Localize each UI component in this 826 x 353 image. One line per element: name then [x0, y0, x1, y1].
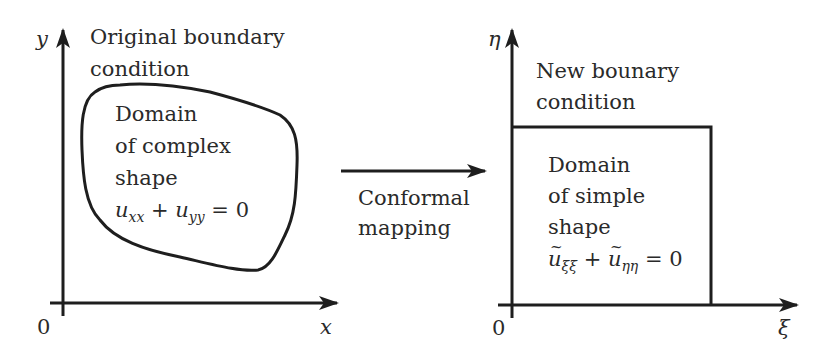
simple-domain-label-line1: Domain — [548, 150, 630, 180]
left-origin-label: 0 — [37, 312, 50, 342]
eq-equals-zero: = 0 — [211, 198, 249, 222]
complex-domain-label-line1: Domain — [115, 99, 197, 129]
eq-plus: + — [584, 247, 602, 271]
eq-var-u: u — [115, 198, 129, 222]
complex-domain-label-line3: shape — [115, 163, 178, 193]
right-origin-label: 0 — [492, 313, 505, 343]
complex-domain-label-line2: of complex — [115, 131, 231, 161]
left-y-axis-label: y — [36, 24, 48, 54]
left-x-axis-label: x — [320, 312, 332, 342]
eq-var-u: u — [175, 198, 189, 222]
laplace-equation-original: uxx + uyy = 0 — [115, 195, 249, 227]
conformal-mapping-label-line2: mapping — [358, 213, 451, 243]
new-boundary-label-line2: condition — [536, 87, 635, 117]
eq-var-u-tilde: u — [608, 244, 622, 274]
eq-sub-xx: xx — [129, 209, 145, 225]
eq-sub-xixi: ξξ — [562, 258, 577, 274]
right-eta-axis-label: η — [488, 24, 501, 54]
simple-domain-label-line2: of simple — [548, 181, 645, 211]
original-boundary-label-line1: Original boundary — [90, 22, 285, 52]
conformal-mapping-label-line1: Conformal — [358, 183, 470, 213]
eq-var-u-tilde: u — [548, 244, 562, 274]
laplace-equation-transformed: uξξ + uηη = 0 — [548, 244, 683, 276]
eq-plus: + — [151, 198, 169, 222]
new-boundary-label-line1: New bounary — [536, 56, 679, 86]
eq-equals-zero: = 0 — [645, 247, 683, 271]
eq-sub-yy: yy — [189, 209, 205, 225]
original-boundary-label-line2: condition — [90, 54, 189, 84]
eq-sub-etaeta: ηη — [621, 258, 638, 274]
right-xi-axis-label: ξ — [778, 313, 790, 343]
